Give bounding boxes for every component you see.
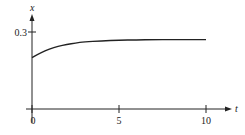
x-tick-label-10: 10 (201, 115, 211, 126)
y-axis-arrow-icon (30, 14, 35, 21)
data-curve (32, 40, 206, 58)
x-axis-arrow-icon (225, 107, 232, 112)
y-axis-label: x (29, 2, 35, 13)
y-tick-label-0.3: 0.3 (15, 27, 28, 38)
x-tick-label-5: 5 (117, 115, 122, 126)
line-chart: x t 0.3 0 5 10 (0, 0, 245, 135)
x-tick-label-0: 0 (31, 115, 36, 126)
x-axis-label: t (235, 103, 238, 114)
